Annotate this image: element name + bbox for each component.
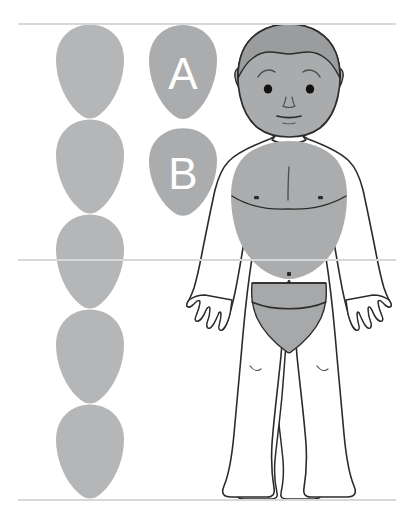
navel — [287, 272, 291, 276]
left-nipple — [254, 196, 259, 199]
proportion-diagram: A B — [0, 0, 414, 524]
right-eye — [306, 84, 314, 93]
diagram-canvas: A B — [0, 0, 414, 524]
callout-b-label: B — [168, 149, 197, 198]
callout-a-label: A — [168, 49, 198, 98]
left-eye — [264, 84, 272, 93]
right-nipple — [318, 196, 323, 199]
head-unit-column — [56, 25, 124, 499]
